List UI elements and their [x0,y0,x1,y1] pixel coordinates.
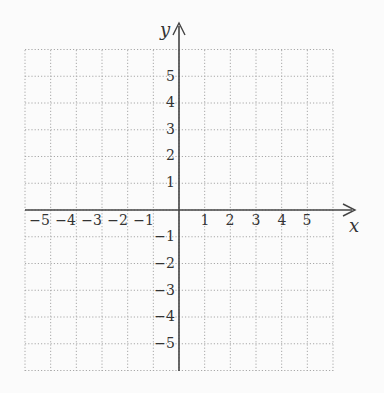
x-tick-label: −3 [81,212,102,228]
y-tick-label: −4 [154,308,175,324]
y-tick-label: 3 [166,121,175,137]
x-tick-label: 5 [303,212,312,228]
y-tick-label: 1 [166,174,175,190]
y-tick-label: −2 [154,255,175,271]
x-tick-labels: −5 −4 −3 −2 −1 1 2 3 4 5 [29,212,311,228]
y-tick-label: −1 [154,228,175,244]
x-tick-label: −4 [55,212,76,228]
x-tick-label: 3 [252,212,261,228]
x-tick-label: −5 [29,212,50,228]
x-tick-label: 4 [278,212,287,228]
y-tick-label: −3 [154,282,175,298]
x-tick-label: −2 [107,212,128,228]
y-tick-label: 5 [166,68,175,84]
y-tick-label: 2 [166,147,175,163]
x-tick-label: 1 [201,212,210,228]
x-tick-label: −1 [133,212,154,228]
y-tick-label: −5 [154,335,175,351]
x-axis-label: x [349,215,359,236]
coordinate-plane: x y −5 −4 −3 −2 −1 1 2 3 4 5 5 4 3 2 1 −… [0,0,384,393]
y-tick-label: 4 [166,94,175,110]
axes [25,23,355,371]
y-axis-label: y [159,19,171,40]
x-tick-label: 2 [226,212,235,228]
